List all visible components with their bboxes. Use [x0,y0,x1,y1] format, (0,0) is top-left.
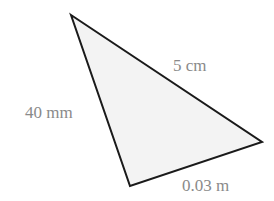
side-label-hypotenuse: 5 cm [173,57,207,74]
side-label-bottom: 0.03 m [182,177,229,194]
side-label-left: 40 mm [25,104,73,121]
triangle-diagram [0,0,274,201]
triangle-shape [71,15,262,186]
